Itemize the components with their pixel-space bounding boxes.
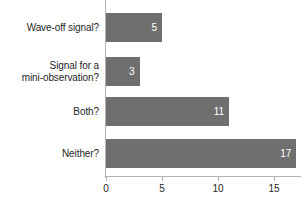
category-label: Both?	[3, 106, 99, 118]
bar-value-label: 11	[214, 107, 224, 117]
category-label-line: Both?	[3, 106, 99, 118]
category-label: Wave-off signal?	[3, 22, 99, 34]
chart-row: Both? 11	[0, 97, 305, 127]
x-axis-tick	[218, 177, 219, 181]
x-axis-tick-label: 15	[259, 183, 289, 194]
x-axis-tick	[106, 177, 107, 181]
x-axis-tick	[162, 177, 163, 181]
bar-value-label: 3	[129, 67, 135, 77]
bar-value-label: 17	[280, 149, 291, 159]
bar[interactable]: 17	[106, 139, 296, 168]
x-axis-tick	[274, 177, 275, 181]
bar-value-label: 5	[151, 23, 157, 33]
bar-chart: Wave-off signal? 5 Signal for a mini-obs…	[0, 0, 305, 202]
category-label-line: Signal for a	[3, 60, 99, 72]
bar[interactable]: 5	[106, 13, 162, 42]
bar[interactable]: 11	[106, 97, 229, 126]
category-label-line: Neither?	[3, 148, 99, 160]
category-label: Neither?	[3, 148, 99, 160]
x-axis-tick-label: 10	[203, 183, 233, 194]
x-axis-tick-label: 5	[147, 183, 177, 194]
x-axis-tick-label: 0	[91, 183, 121, 194]
category-label: Signal for a mini-observation?	[3, 60, 99, 83]
bar[interactable]: 3	[106, 57, 140, 86]
chart-row: Signal for a mini-observation? 3	[0, 57, 305, 87]
chart-row: Wave-off signal? 5	[0, 13, 305, 43]
category-label-line: Wave-off signal?	[3, 22, 99, 34]
category-label-line: mini-observation?	[3, 72, 99, 84]
chart-row: Neither? 17	[0, 139, 305, 169]
x-axis-line	[105, 176, 301, 177]
